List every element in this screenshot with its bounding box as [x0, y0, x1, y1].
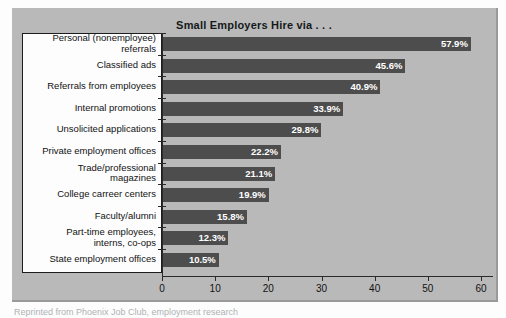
- chart-panel: Small Employers Hire via . . . Personal …: [12, 8, 496, 300]
- bar-value-label: 19.9%: [163, 188, 269, 202]
- bar-value-label: 40.9%: [163, 80, 380, 94]
- category-tick: [158, 227, 166, 228]
- category-tick: [158, 206, 166, 207]
- x-axis-tick-label: 30: [310, 283, 334, 294]
- category-label: Unsolicited applications: [22, 124, 156, 135]
- category-label: Classified ads: [22, 60, 156, 71]
- bar-value-label: 22.2%: [163, 145, 281, 159]
- chart-title: Small Employers Hire via . . .: [12, 19, 496, 31]
- x-axis-tick-label: 0: [150, 283, 174, 294]
- category-label: Trade/professional magazines: [22, 163, 156, 184]
- x-axis-tick-mark: [428, 276, 429, 281]
- category-tick: [158, 98, 166, 99]
- x-axis-tick-label: 40: [363, 283, 387, 294]
- category-label: Internal promotions: [22, 103, 156, 114]
- category-tick: [158, 119, 166, 120]
- x-axis-tick-mark: [162, 276, 163, 281]
- x-axis-tick-label: 50: [416, 283, 440, 294]
- category-label: Personal (nonemployee) referrals: [22, 33, 156, 54]
- category-label: Part-time employees, interns, co-ops: [22, 227, 156, 248]
- category-tick: [158, 55, 166, 56]
- x-axis-tick-mark: [268, 276, 269, 281]
- category-tick: [158, 249, 166, 250]
- category-label: Referrals from employees: [22, 81, 156, 92]
- x-axis-tick-label: 60: [469, 283, 493, 294]
- bar-value-label: 45.6%: [163, 59, 405, 73]
- category-tick: [158, 184, 166, 185]
- x-axis-tick-mark: [481, 276, 482, 281]
- x-axis-tick-mark: [322, 276, 323, 281]
- bar-value-label: 10.5%: [163, 253, 219, 267]
- figure: Small Employers Hire via . . . Personal …: [0, 0, 506, 318]
- bar-value-label: 21.1%: [163, 167, 275, 181]
- x-axis-tick-label: 20: [256, 283, 280, 294]
- category-tick: [158, 33, 166, 34]
- x-axis-tick-label: 10: [203, 283, 227, 294]
- bar-value-label: 12.3%: [163, 231, 228, 245]
- bar-value-label: 57.9%: [163, 37, 471, 51]
- category-tick: [158, 163, 166, 164]
- x-axis-tick-mark: [215, 276, 216, 281]
- x-axis-tick-mark: [375, 276, 376, 281]
- bar-value-label: 33.9%: [163, 102, 343, 116]
- bar-value-label: 29.8%: [163, 123, 321, 137]
- category-tick: [158, 141, 166, 142]
- category-label: College carreer centers: [22, 189, 156, 200]
- source-caption: Reprinted from Phoenix Job Club, employm…: [14, 307, 238, 318]
- bar-value-label: 15.8%: [163, 210, 247, 224]
- category-label: Faculty/alumni: [22, 211, 156, 222]
- x-axis-line: [162, 276, 493, 277]
- category-label: State employment offices: [22, 254, 156, 265]
- category-tick: [158, 76, 166, 77]
- category-label: Private employment offices: [22, 146, 156, 157]
